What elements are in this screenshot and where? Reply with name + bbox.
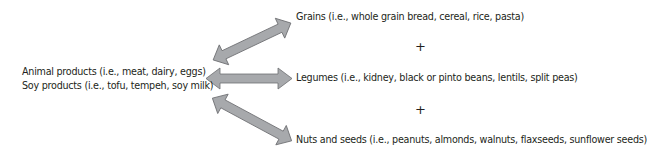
double-arrow-icon-legumes <box>206 68 292 89</box>
right-label-grains: Grains (i.e., whole grain bread, cereal,… <box>296 11 524 23</box>
plus-sign-1: + <box>415 40 426 53</box>
right-label-nuts-seeds: Nuts and seeds (i.e., peanuts, almonds, … <box>296 134 647 146</box>
left-label-animal: Animal products (i.e., meat, dairy, eggs… <box>22 66 206 78</box>
double-arrow-icon-nuts <box>207 88 297 150</box>
double-arrow-icon-grains <box>208 13 295 70</box>
plus-sign-2: + <box>415 103 426 116</box>
left-label-soy: Soy products (i.e., tofu, tempeh, soy mi… <box>22 80 213 92</box>
right-label-legumes: Legumes (i.e., kidney, black or pinto be… <box>296 72 578 84</box>
